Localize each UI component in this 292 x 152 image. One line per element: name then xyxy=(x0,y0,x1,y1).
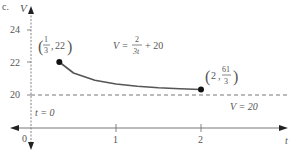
y-axis-arrow-down-icon xyxy=(28,142,34,150)
chart: c. 24 22 20 0 1 2 V t ( 1 3 , 22 ) ( 2 ,… xyxy=(0,0,292,152)
y-axis-label: V xyxy=(20,2,28,14)
y-axis-arrow-up-icon xyxy=(28,6,34,14)
tick-y24: 24 xyxy=(10,24,20,35)
point-end xyxy=(198,87,204,93)
svg-text:,: , xyxy=(51,40,54,51)
svg-text:(: ( xyxy=(38,38,43,56)
asymptote-v-label: V = 20 xyxy=(230,101,258,112)
x-axis-label: t xyxy=(285,135,288,146)
tick-x0: 0 xyxy=(22,133,27,144)
tick-x2: 2 xyxy=(198,134,203,145)
point-label-end: ( 2 , 61 3 ) xyxy=(205,65,238,86)
point-start xyxy=(56,59,62,65)
svg-text:+ 20: + 20 xyxy=(145,40,163,51)
tick-y20: 20 xyxy=(10,89,20,100)
x-axis-arrow-left-icon xyxy=(10,125,19,131)
svg-text:61: 61 xyxy=(222,65,230,74)
svg-text:1: 1 xyxy=(44,35,48,44)
svg-text:V =: V = xyxy=(113,40,128,51)
svg-text:): ) xyxy=(67,38,72,56)
svg-text:(: ( xyxy=(205,68,210,86)
tick-x1: 1 xyxy=(113,134,118,145)
tick-y22: 22 xyxy=(10,57,20,68)
svg-text:2: 2 xyxy=(211,70,216,81)
x-axis-arrow-right-icon xyxy=(279,125,288,131)
svg-text:): ) xyxy=(233,68,238,86)
panel-label: c. xyxy=(2,1,9,12)
svg-text:3: 3 xyxy=(44,46,48,55)
curve xyxy=(59,62,201,90)
svg-text:3: 3 xyxy=(224,77,228,86)
svg-text:22: 22 xyxy=(55,40,65,51)
asymptote-t-label: t = 0 xyxy=(35,107,55,118)
svg-text:3t: 3t xyxy=(132,47,140,56)
equation-label: V = 2 3t + 20 xyxy=(113,35,163,56)
svg-text:2: 2 xyxy=(135,35,139,44)
svg-text:,: , xyxy=(218,70,221,81)
point-label-start: ( 1 3 , 22 ) xyxy=(38,35,72,56)
